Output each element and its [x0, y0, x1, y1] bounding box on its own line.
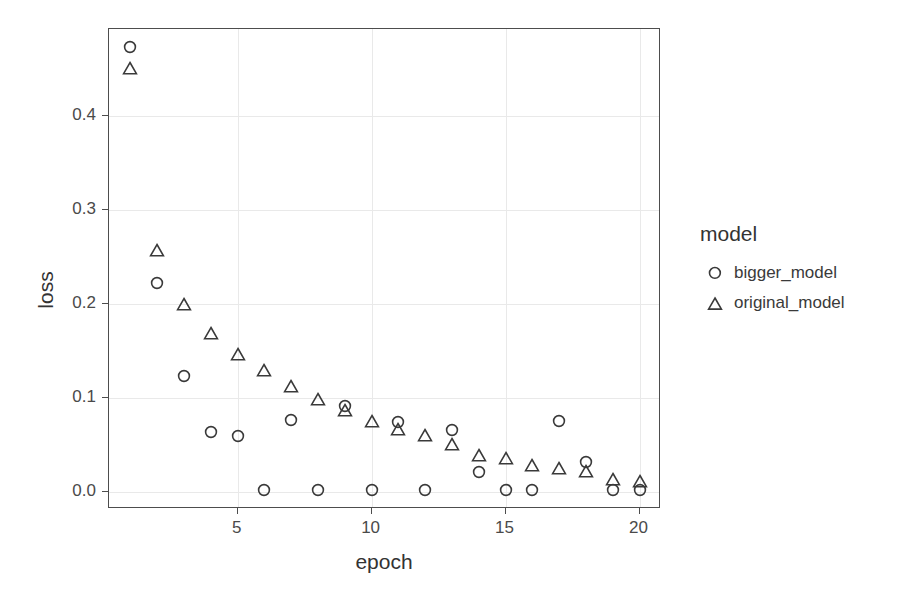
- gridline-vertical: [506, 29, 507, 507]
- data-point-bigger_model-epoch-3: [177, 369, 191, 383]
- data-point-bigger_model-epoch-16: [525, 483, 539, 497]
- x-tick-mark: [371, 508, 372, 514]
- data-point-bigger_model-epoch-2: [150, 276, 164, 290]
- legend-item-bigger_model[interactable]: bigger_model: [700, 258, 890, 288]
- scatter-plot-figure: 0.00.10.20.30.4 5101520 epoch loss model…: [0, 0, 898, 608]
- data-point-bigger_model-epoch-6: [258, 483, 272, 497]
- data-point-original_model-epoch-6: [256, 362, 272, 377]
- y-tick-mark: [102, 115, 108, 116]
- gridline-horizontal: [109, 398, 659, 399]
- legend-item-label: original_model: [734, 293, 845, 313]
- data-point-original_model-epoch-7: [283, 378, 299, 393]
- data-point-original_model-epoch-8: [310, 391, 326, 406]
- circle-marker-icon: [700, 266, 730, 280]
- data-point-original_model-epoch-4: [203, 326, 219, 341]
- legend-title: model: [700, 222, 890, 246]
- x-tick-label: 15: [495, 518, 514, 538]
- y-tick-mark: [102, 209, 108, 210]
- legend-item-label: bigger_model: [734, 263, 837, 283]
- y-tick-label: 0.2: [72, 293, 96, 313]
- data-point-original_model-epoch-12: [417, 427, 433, 442]
- data-point-bigger_model-epoch-4: [204, 425, 218, 439]
- data-point-original_model-epoch-9: [337, 403, 353, 418]
- data-point-original_model-epoch-16: [524, 457, 540, 472]
- y-tick-label: 0.4: [72, 105, 96, 125]
- gridline-vertical: [238, 29, 239, 507]
- gridline-horizontal: [109, 492, 659, 493]
- data-point-bigger_model-epoch-9: [338, 400, 352, 414]
- data-point-original_model-epoch-14: [471, 448, 487, 463]
- data-point-original_model-epoch-13: [444, 437, 460, 452]
- x-tick-label: 5: [232, 518, 241, 538]
- y-tick-mark: [102, 397, 108, 398]
- y-tick-mark: [102, 491, 108, 492]
- x-tick-mark: [237, 508, 238, 514]
- x-tick-label: 10: [361, 518, 380, 538]
- data-point-original_model-epoch-18: [578, 464, 594, 479]
- legend-entries: bigger_modeloriginal_model: [700, 258, 890, 318]
- y-tick-label: 0.3: [72, 199, 96, 219]
- y-tick-label: 0.0: [72, 481, 96, 501]
- x-tick-mark: [505, 508, 506, 514]
- data-point-bigger_model-epoch-13: [445, 423, 459, 437]
- data-point-bigger_model-epoch-11: [391, 416, 405, 430]
- data-point-bigger_model-epoch-1: [124, 40, 138, 54]
- data-point-bigger_model-epoch-18: [579, 455, 593, 469]
- plot-panel: [108, 28, 660, 508]
- data-point-bigger_model-epoch-8: [311, 483, 325, 497]
- triangle-marker-icon: [700, 296, 730, 311]
- data-point-original_model-epoch-17: [551, 460, 567, 475]
- y-tick-mark: [102, 303, 108, 304]
- data-point-original_model-epoch-1: [122, 60, 138, 75]
- legend-item-original_model[interactable]: original_model: [700, 288, 890, 318]
- legend: model bigger_modeloriginal_model: [700, 222, 890, 318]
- x-tick-label: 20: [629, 518, 648, 538]
- gridline-horizontal: [109, 116, 659, 117]
- data-point-bigger_model-epoch-14: [472, 465, 486, 479]
- data-point-original_model-epoch-2: [149, 243, 165, 258]
- data-point-bigger_model-epoch-12: [418, 483, 432, 497]
- y-axis-title: loss: [34, 271, 58, 308]
- plot-area: [109, 29, 659, 507]
- gridline-vertical: [640, 29, 641, 507]
- data-point-bigger_model-epoch-7: [284, 413, 298, 427]
- data-point-original_model-epoch-11: [390, 422, 406, 437]
- x-axis-title: epoch: [355, 550, 412, 574]
- gridline-horizontal: [109, 304, 659, 305]
- data-point-bigger_model-epoch-17: [552, 415, 566, 429]
- gridline-horizontal: [109, 210, 659, 211]
- y-tick-label: 0.1: [72, 387, 96, 407]
- x-tick-mark: [639, 508, 640, 514]
- gridline-vertical: [372, 29, 373, 507]
- data-point-bigger_model-epoch-19: [606, 483, 620, 497]
- data-point-original_model-epoch-19: [605, 471, 621, 486]
